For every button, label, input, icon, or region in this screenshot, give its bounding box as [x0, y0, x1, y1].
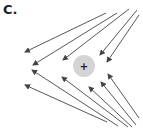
field-arrow [25, 13, 106, 52]
plus-sign-icon: + [80, 61, 88, 72]
field-arrow [33, 13, 117, 65]
field-arrow [25, 85, 107, 122]
field-arrow [32, 70, 118, 126]
field-arrow [63, 9, 129, 60]
field-arrow [62, 77, 128, 127]
positive-charge: + [73, 55, 95, 77]
field-line-diagram: + [0, 0, 143, 128]
